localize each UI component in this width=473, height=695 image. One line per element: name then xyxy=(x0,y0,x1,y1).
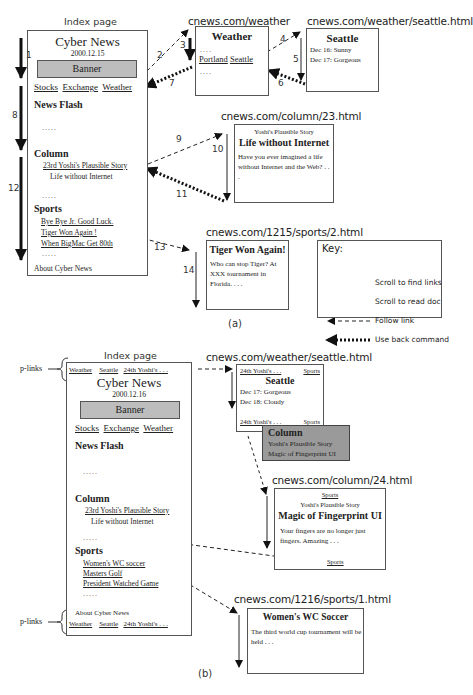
column-url: cnews.com/column/23.html xyxy=(221,110,361,122)
news-flash-heading: News Flash xyxy=(34,99,83,110)
weather-title: Weather xyxy=(196,30,268,42)
plink-yoshi[interactable]: 24th Yoshi's . . . xyxy=(123,366,167,374)
about-link[interactable]: About Cyber News xyxy=(34,264,92,273)
popup-title: Column xyxy=(268,427,302,438)
sports-link[interactable]: Masters Golf xyxy=(83,569,122,578)
step-2: 2 xyxy=(157,50,163,60)
index-page-label-b: Index page xyxy=(104,350,157,361)
plink-yoshi[interactable]: 24th Yoshi's . . . xyxy=(123,620,167,628)
column-link[interactable]: 23rd Yoshi's Plausible Story xyxy=(43,161,127,170)
forecast-line: Dec 18: Cloudy xyxy=(240,398,284,406)
column-heading: Column xyxy=(34,148,68,159)
sports-url: cnews.com/1215/sports/2.html xyxy=(206,226,363,238)
nav-link-weather[interactable]: Weather xyxy=(143,423,173,433)
column-link[interactable]: 23rd Yoshi's Plausible Story xyxy=(85,506,169,515)
site-title: Cyber News xyxy=(28,34,147,50)
column-body: Your fingers are no longer just fingers.… xyxy=(280,526,382,546)
sports-link[interactable]: President Watched Game xyxy=(83,579,158,588)
news-flash-heading: News Flash xyxy=(75,440,124,451)
key-item: Follow link xyxy=(375,316,414,325)
ellipsis: ..... xyxy=(83,533,98,542)
sports-url-b: cnews.com/1216/sports/1.html xyxy=(234,593,391,605)
step-5: 5 xyxy=(293,54,299,64)
plink-seattle[interactable]: Seattle xyxy=(99,366,118,374)
sports-page-b: Women's WC Soccer The third world cup to… xyxy=(247,608,364,674)
ellipsis: .... xyxy=(200,67,212,76)
nav-link-weather[interactable]: Weather xyxy=(102,82,132,92)
banner[interactable]: Banner xyxy=(37,60,137,78)
sports-body: The third world cup tournament will be h… xyxy=(251,627,363,647)
sports-link[interactable]: Women's WC soccer xyxy=(83,559,145,568)
site-date: 2000.12.16 xyxy=(67,390,191,399)
forecast-line: Dec 17: Gorgeous xyxy=(310,56,361,64)
step-12: 12 xyxy=(8,183,19,193)
plink-weather[interactable]: Weather xyxy=(69,366,92,374)
link-seattle[interactable]: Seattle xyxy=(230,54,253,64)
step-3: 3 xyxy=(180,40,186,50)
step-7: 7 xyxy=(169,78,175,88)
caption-b: (b) xyxy=(198,668,212,679)
key-item: Scroll to find links xyxy=(375,278,442,287)
plink-weather[interactable]: Weather xyxy=(69,620,92,628)
column-title: Life without Internet xyxy=(235,137,333,148)
caption-a: (a) xyxy=(228,318,242,329)
seattle-page-b: 24th Yoshi's . . . Sports Seattle Dec 17… xyxy=(236,364,324,432)
index-page-b: Weather Seattle 24th Yoshi's . . . Cyber… xyxy=(66,362,192,636)
site-title: Cyber News xyxy=(67,375,191,391)
link-sports[interactable]: Sports xyxy=(327,558,344,565)
arrow-9 xyxy=(148,134,222,164)
step-6: 6 xyxy=(278,78,284,88)
key-item: Use back command xyxy=(375,335,449,344)
sports-title: Women's WC Soccer xyxy=(248,612,363,622)
about-link[interactable]: About Cyber News xyxy=(75,609,129,617)
plinks-label-bottom: p-links xyxy=(20,617,42,626)
column-url-b: cnews.com/column/24.html xyxy=(272,474,412,486)
column-kicker: Yoshi's Plausible Story xyxy=(275,501,385,508)
column-body: Have you ever imagined a life without In… xyxy=(238,152,332,182)
plink-seattle[interactable]: Seattle xyxy=(99,620,118,628)
link-sports[interactable]: Sports xyxy=(303,367,320,374)
link-sports[interactable]: Sports xyxy=(303,418,320,425)
index-page-label-a: Index page xyxy=(64,16,117,27)
seattle-url: cnews.com/weather/seattle.html xyxy=(307,15,473,27)
sports-heading: Sports xyxy=(34,203,62,214)
nav-link-stocks[interactable]: Stocks xyxy=(75,423,99,433)
popup-line[interactable]: Magic of Fingerprint UI xyxy=(268,450,336,458)
link-yoshi[interactable]: 24th Yoshi's . . . xyxy=(240,367,281,374)
ellipsis: ..... xyxy=(42,123,57,132)
column-subtitle: Life without Internet xyxy=(91,517,153,526)
nav-link-exchange[interactable]: Exchange xyxy=(104,423,139,433)
popup-line[interactable]: Yoshi's Plausible Story xyxy=(268,440,332,448)
seattle-url-b: cnews.com/weather/seattle.html xyxy=(206,351,372,363)
column-page: Yoshi's Plausible Story Life without Int… xyxy=(234,124,334,203)
site-date: 2000.12.15 xyxy=(28,49,147,58)
forecast-line: Dec 17: Gorgeous xyxy=(240,388,291,396)
sports-link[interactable]: Bye Bye Jr. Good Luck. xyxy=(41,217,114,226)
column-subtitle: Life without Internet xyxy=(50,172,112,181)
key-item: Scroll to read doc xyxy=(375,297,441,306)
link-yoshi[interactable]: 24th Yoshi's . . . xyxy=(240,418,281,425)
seattle-page: Seattle Dec 16: Sunny Dec 17: Gorgeous xyxy=(306,28,379,92)
column-title: Magic of Fingerprint UI xyxy=(275,510,385,521)
step-8: 8 xyxy=(12,110,18,120)
seattle-title: Seattle xyxy=(237,375,323,386)
step-14: 14 xyxy=(183,265,194,275)
ellipsis: ..... xyxy=(83,589,98,598)
nav-link-exchange[interactable]: Exchange xyxy=(63,82,98,92)
nav-link-stocks[interactable]: Stocks xyxy=(34,82,58,92)
sports-body: Who can stop Tiger? At XXX tournament in… xyxy=(210,259,288,289)
arrow-6 xyxy=(268,70,305,84)
ellipsis: .... xyxy=(200,45,212,54)
key-title: Key: xyxy=(322,243,343,254)
link-portland[interactable]: Portland xyxy=(199,54,228,64)
sports-link[interactable]: When BigMac Get 80th xyxy=(41,239,113,248)
step-11: 11 xyxy=(176,189,187,199)
link-sports[interactable]: Sports xyxy=(322,491,339,498)
column-popup: Column Yoshi's Plausible Story Magic of … xyxy=(262,425,350,461)
banner[interactable]: Banner xyxy=(80,401,180,419)
step-13: 13 xyxy=(154,242,165,252)
sports-link[interactable]: Tiger Won Again ! xyxy=(41,228,97,237)
step-4: 4 xyxy=(280,34,286,44)
sports-heading: Sports xyxy=(75,545,103,556)
ellipsis: ..... xyxy=(42,249,57,258)
